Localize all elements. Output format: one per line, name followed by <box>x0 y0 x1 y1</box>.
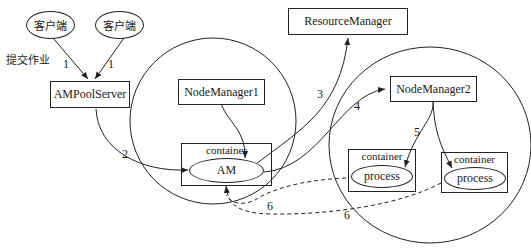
edge-label-3: 3 <box>317 88 323 100</box>
node-manager-2-label: NodeManager2 <box>396 82 471 97</box>
resource-manager-node: ResourceManager <box>288 8 408 35</box>
node-manager-2-node: NodeManager2 <box>390 76 477 102</box>
process-label: process <box>457 171 493 186</box>
diagram-edges <box>0 0 531 248</box>
ampool-server-label: AMPoolServer <box>54 87 127 102</box>
ampool-server-node: AMPoolServer <box>50 81 130 108</box>
submit-job-label: 提交作业 <box>6 55 50 67</box>
edge-label-2: 2 <box>122 148 128 160</box>
edge-label-1a: 1 <box>63 58 69 70</box>
node-manager-1-node: NodeManager1 <box>178 79 265 105</box>
process-node-1: process <box>351 165 413 188</box>
process-node-2: process <box>444 167 506 190</box>
client-node-1: 客户端 <box>26 11 75 39</box>
client-label: 客户端 <box>103 17 136 33</box>
edge-label-6a: 6 <box>267 200 273 212</box>
am-label: AM <box>217 163 236 178</box>
container-label: container <box>182 144 271 157</box>
resource-manager-label: ResourceManager <box>304 14 391 29</box>
edge-label-6b: 6 <box>344 209 350 221</box>
container-label: container <box>349 150 415 163</box>
container-label: container <box>442 153 507 166</box>
edge-label-4: 4 <box>354 100 360 112</box>
edge-label-5: 5 <box>414 126 420 138</box>
process-label: process <box>364 169 400 184</box>
client-label: 客户端 <box>34 17 67 33</box>
am-node: AM <box>189 158 264 183</box>
edge-label-1b: 1 <box>108 58 114 70</box>
client-node-2: 客户端 <box>95 11 144 39</box>
node-manager-1-label: NodeManager1 <box>184 85 259 100</box>
